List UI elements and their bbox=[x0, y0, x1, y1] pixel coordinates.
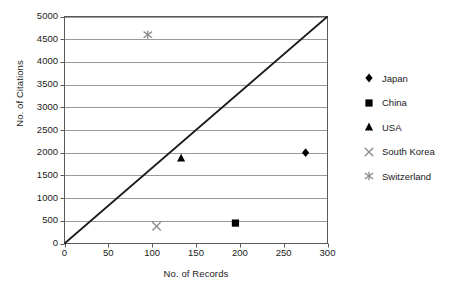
x-axis-title: No. of Records bbox=[64, 268, 328, 279]
scatter-chart-figure: 0500100015002000250030003500400045005000… bbox=[0, 0, 450, 286]
y-tick-label-500: 500 bbox=[16, 215, 58, 225]
x-cross-marker-icon bbox=[361, 144, 377, 160]
x-tick-label-200: 200 bbox=[220, 248, 260, 258]
data-point-japan bbox=[302, 148, 309, 157]
data-point-switzerland bbox=[144, 30, 152, 38]
y-tick-label-1000: 1000 bbox=[16, 193, 58, 203]
legend-item-japan[interactable]: Japan bbox=[361, 66, 450, 91]
y-tick-label-1500: 1500 bbox=[16, 170, 58, 180]
x-tick-label-50: 50 bbox=[88, 248, 128, 258]
data-point-usa bbox=[177, 154, 185, 162]
x-tick-label-250: 250 bbox=[264, 248, 304, 258]
y-axis-title: No. of Citations bbox=[14, 34, 25, 154]
x-tick-label-0: 0 bbox=[45, 248, 85, 258]
legend-label: Japan bbox=[377, 73, 408, 84]
legend-label: Switzerland bbox=[377, 171, 431, 182]
x-tick-label-150: 150 bbox=[176, 248, 216, 258]
square-marker-icon bbox=[361, 95, 377, 111]
gridlines bbox=[65, 18, 328, 222]
chart-legend: JapanChinaUSASouth KoreaSwitzerland bbox=[361, 66, 450, 189]
x-tick-label-100: 100 bbox=[132, 248, 172, 258]
data-point-china bbox=[232, 219, 239, 226]
legend-item-china[interactable]: China bbox=[361, 91, 450, 116]
legend-label: USA bbox=[377, 122, 402, 133]
diamond-marker-icon bbox=[361, 70, 377, 86]
triangle-marker-icon bbox=[361, 119, 377, 135]
x-axis-tick-labels: 050100150200250300 bbox=[0, 248, 450, 262]
legend-item-usa[interactable]: USA bbox=[361, 115, 450, 140]
data-point-south-korea bbox=[152, 222, 160, 230]
y-tick-label-0: 0 bbox=[16, 238, 58, 248]
x-tick-label-300: 300 bbox=[308, 248, 348, 258]
asterisk-marker-icon bbox=[361, 168, 377, 184]
legend-item-switzerland[interactable]: Switzerland bbox=[361, 164, 450, 189]
legend-item-south-korea[interactable]: South Korea bbox=[361, 140, 450, 165]
y-tick-label-5000: 5000 bbox=[16, 11, 58, 21]
legend-label: China bbox=[377, 97, 407, 108]
legend-label: South Korea bbox=[377, 146, 435, 157]
